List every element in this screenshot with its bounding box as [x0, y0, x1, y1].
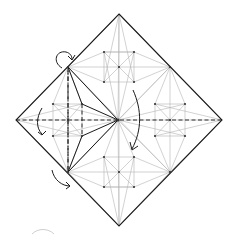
reference-crease [16, 120, 82, 136]
crease-node [184, 103, 186, 105]
reference-crease [68, 52, 104, 67]
reference-crease [170, 136, 185, 172]
crease-node [103, 81, 105, 83]
reference-crease [155, 120, 170, 136]
crease-node [154, 135, 156, 137]
crease-node [103, 51, 105, 53]
faint-arc-decoration [32, 230, 54, 235]
reference-crease [104, 172, 119, 187]
crease-pattern-diagram [0, 0, 237, 239]
fold-edge [82, 104, 118, 120]
center-node [116, 118, 119, 121]
reference-crease [170, 104, 185, 120]
reference-crease [53, 136, 68, 172]
reference-crease [119, 14, 134, 82]
crease-node [169, 66, 171, 68]
crease-node [103, 156, 105, 158]
crease-node [118, 66, 120, 68]
crease-node [67, 66, 69, 68]
crease-node [133, 186, 135, 188]
fold-edge [68, 136, 82, 172]
crease-node [118, 171, 120, 173]
crease-node [169, 171, 171, 173]
crease-node [133, 156, 135, 158]
reference-crease [118, 120, 185, 136]
reference-crease [68, 120, 82, 136]
arrow-left-head [38, 131, 46, 135]
crease-node [67, 119, 69, 121]
reference-crease [118, 120, 170, 172]
reference-crease [104, 52, 119, 67]
crease-node [67, 171, 69, 173]
fold-edge [68, 120, 118, 172]
reference-crease [134, 52, 170, 67]
crease-node [154, 103, 156, 105]
reference-crease [170, 120, 185, 136]
reference-crease [104, 52, 118, 120]
reference-crease [119, 172, 134, 187]
crease-node [184, 135, 186, 137]
crease-node [133, 81, 135, 83]
reference-crease [104, 67, 119, 82]
reference-crease [119, 157, 134, 226]
reference-crease [119, 67, 134, 82]
crease-node [81, 135, 83, 137]
reference-crease [119, 157, 134, 172]
reference-crease [53, 120, 118, 136]
reference-crease [68, 104, 82, 120]
reference-crease [53, 120, 68, 136]
crease-node [103, 186, 105, 188]
crease-node [81, 103, 83, 105]
reference-crease [104, 157, 119, 226]
crease-node [52, 103, 54, 105]
reference-crease [119, 52, 134, 67]
reference-crease [68, 67, 104, 82]
fold-edge [68, 67, 118, 120]
reference-crease [16, 104, 82, 120]
reference-crease [155, 104, 222, 120]
reference-crease [118, 120, 134, 157]
reference-crease [155, 120, 222, 136]
crease-node [52, 135, 54, 137]
reference-crease [53, 104, 68, 120]
crease-node [133, 51, 135, 53]
reference-crease [118, 104, 185, 120]
crease-node [169, 119, 171, 121]
reference-crease [104, 157, 119, 172]
arrow-left [38, 108, 43, 134]
reference-crease [53, 104, 118, 120]
reference-crease [155, 104, 170, 120]
fold-edge [68, 67, 82, 104]
reference-crease [53, 67, 68, 104]
reference-crease [170, 67, 185, 104]
reference-crease [104, 14, 119, 82]
reference-crease [118, 52, 134, 120]
